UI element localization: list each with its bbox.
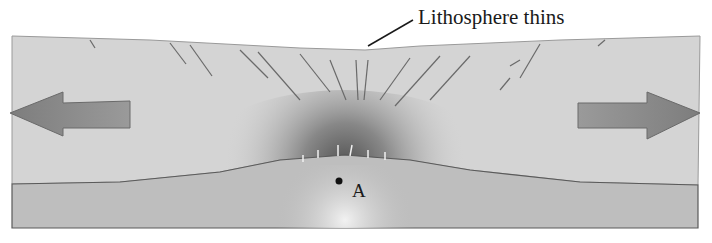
rift-diagram <box>0 0 712 243</box>
callout-leader-line <box>368 20 413 46</box>
point-a-label: A <box>352 180 366 202</box>
lithosphere-thins-label: Lithosphere thins <box>418 5 564 30</box>
hot-upwelling <box>270 165 420 228</box>
point-a-marker <box>336 178 343 185</box>
